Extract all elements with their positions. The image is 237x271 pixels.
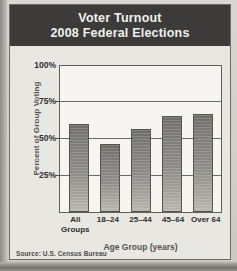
tick-mark-25 (55, 175, 59, 176)
y-tick-label-50: 50% (26, 133, 56, 143)
scan-bottom-edge (0, 262, 237, 271)
bar-series (60, 66, 221, 212)
y-tick-label-25: 25% (26, 170, 56, 180)
x-tick-label-25-44: 25–44 (124, 215, 157, 241)
bar-all-groups (69, 124, 89, 212)
plot-box (59, 65, 222, 213)
chart-title-band: Voter Turnout 2008 Federal Elections (10, 5, 230, 46)
chart-title-line-1: Voter Turnout (78, 11, 161, 26)
y-tick-label-75: 75% (26, 96, 56, 106)
y-axis-tick-labels: 100% 75% 50% 25% (24, 46, 56, 261)
bar-over-64 (193, 114, 213, 212)
x-tick-label-18-24: 18–24 (92, 215, 125, 241)
chart-title-line-2: 2008 Federal Elections (50, 26, 189, 41)
scanned-page: Voter Turnout 2008 Federal Elections Per… (0, 0, 237, 271)
x-tick-label-45-64: 45–64 (157, 215, 190, 241)
bar-25-44 (131, 129, 151, 212)
chart-plot-area: Percent of Group Voting 100% 75% 50% 25% (10, 46, 230, 261)
source-note: Source: U.S. Census Bureau (16, 250, 107, 257)
x-axis-tick-labels: All Groups 18–24 25–44 45–64 Over 64 (59, 215, 222, 241)
bar-45-64 (162, 116, 182, 212)
bar-18-24 (100, 144, 120, 212)
tick-mark-50 (55, 138, 59, 139)
chart-figure: Voter Turnout 2008 Federal Elections Per… (9, 4, 231, 260)
x-tick-label-all-groups: All Groups (59, 215, 92, 241)
y-tick-label-100: 100% (26, 60, 56, 70)
x-tick-label-over-64: Over 64 (189, 215, 222, 241)
tick-mark-75 (55, 101, 59, 102)
scan-left-edge (0, 0, 7, 271)
